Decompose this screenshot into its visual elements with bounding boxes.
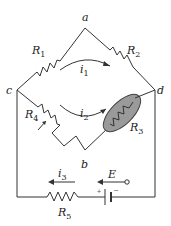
i2-label: i2 [80, 107, 89, 122]
node-a-label: a [82, 11, 89, 24]
r2-resistor [85, 28, 155, 90]
emf-label: E [107, 168, 116, 181]
i3-label: i3 [58, 167, 67, 182]
battery [105, 189, 155, 205]
node-d-label: d [157, 84, 164, 97]
battery-minus-label: − [114, 186, 119, 195]
battery-plus-label: + [97, 188, 101, 195]
r1-label: R1 [31, 44, 45, 59]
node-b-label: b [81, 158, 88, 171]
i1-label: i1 [80, 63, 89, 78]
r1-resistor [17, 28, 85, 90]
node-c-label: c [6, 84, 12, 97]
r3-resistor [85, 88, 155, 150]
r5-label: R5 [57, 206, 71, 221]
r3-label: R3 [129, 121, 143, 136]
circuit-diagram: a c d b R1 R2 R3 R4 R5 i1 i2 i3 E + − [0, 0, 171, 226]
r5-resistor [17, 192, 105, 201]
r4-label: R4 [24, 108, 38, 123]
r2-label: R2 [126, 44, 140, 59]
terminal-circle-icon [125, 180, 129, 184]
